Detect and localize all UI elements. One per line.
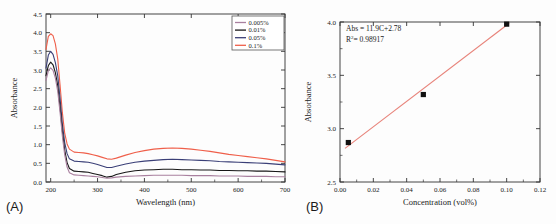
y-tick-label: 4.0 xyxy=(327,19,336,27)
y-tick-label: 3.0 xyxy=(327,125,336,133)
panel-b-calibration-curve: 0.000.020.040.060.080.100.122.53.03.54.0… xyxy=(292,0,556,224)
x-tick-label: 400 xyxy=(139,186,150,194)
annotation-r-squared: R2= 0.98917 xyxy=(346,35,384,44)
x-tick-label: 0.12 xyxy=(534,186,547,194)
x-tick-label: 500 xyxy=(186,186,197,194)
legend-label-0: 0.005% xyxy=(249,19,270,26)
x-tick-label: 0.06 xyxy=(434,186,447,194)
annotation-r-value: = 0.98917 xyxy=(354,35,385,44)
plot-frame xyxy=(340,22,540,182)
series-line-0.05pct xyxy=(46,51,285,167)
y-tick-label: 3.5 xyxy=(327,72,336,80)
legend-label-2: 0.05% xyxy=(249,34,266,41)
panel-b-plot: 0.000.020.040.060.080.100.122.53.03.54.0… xyxy=(292,0,556,224)
y-axis-title: Absorbance xyxy=(303,81,313,122)
data-point-0 xyxy=(346,140,351,145)
panel-a-label: (A) xyxy=(6,199,23,214)
y-axis-title: Absorbance xyxy=(9,77,19,118)
panel-a-plot: 2003004005006007000.00.51.01.52.02.53.03… xyxy=(0,0,292,224)
annotation-equation: Abs = 11.9C+2.78 xyxy=(346,24,402,33)
x-tick-label: 200 xyxy=(45,186,56,194)
y-tick-label: 4.5 xyxy=(33,11,42,19)
figure-container: 2003004005006007000.00.51.01.52.02.53.03… xyxy=(0,0,556,224)
x-tick-label: 300 xyxy=(92,186,103,194)
x-tick-label: 700 xyxy=(280,186,291,194)
x-axis-title: Wavelength (nm) xyxy=(136,197,195,207)
y-tick-label: 2.5 xyxy=(327,179,336,187)
y-tick-label: 3.0 xyxy=(33,67,42,75)
data-point-2 xyxy=(504,22,509,27)
legend-label-3: 0.1% xyxy=(249,42,263,49)
x-tick-label: 0.10 xyxy=(501,186,514,194)
x-tick-label: 0.04 xyxy=(401,186,414,194)
y-tick-label: 2.5 xyxy=(33,85,42,93)
x-tick-label: 0.02 xyxy=(367,186,380,194)
x-axis-title: Concentration (vol%) xyxy=(403,197,477,207)
y-tick-label: 2.0 xyxy=(33,104,42,112)
x-tick-label: 0.00 xyxy=(334,186,347,194)
y-tick-label: 0.0 xyxy=(33,179,42,187)
panel-b-label: (B) xyxy=(306,199,323,214)
y-tick-label: 4.0 xyxy=(33,29,42,37)
data-point-1 xyxy=(421,92,426,97)
y-tick-label: 1.0 xyxy=(33,141,42,149)
series-line-0.1pct xyxy=(46,34,285,162)
panel-a-uv-vis-spectra: 2003004005006007000.00.51.01.52.02.53.03… xyxy=(0,0,292,224)
x-tick-label: 0.08 xyxy=(467,186,480,194)
y-tick-label: 0.5 xyxy=(33,160,42,168)
x-tick-label: 600 xyxy=(233,186,244,194)
y-tick-label: 3.5 xyxy=(33,48,42,56)
legend-label-1: 0.01% xyxy=(249,26,266,33)
y-tick-label: 1.5 xyxy=(33,123,42,131)
